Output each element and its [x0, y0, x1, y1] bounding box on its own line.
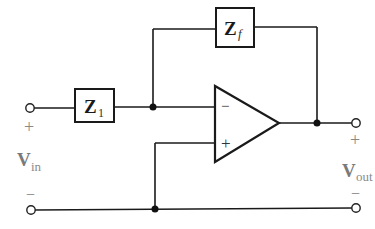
junction-node-inverting [150, 104, 157, 111]
junction-node-output [314, 120, 321, 127]
output-terminal-positive [352, 119, 360, 127]
opamp-inverting-sign: − [221, 98, 229, 114]
output-terminal-negative [352, 204, 360, 212]
vin-plus-sign: + [24, 117, 34, 137]
z1-label: Z [84, 96, 97, 117]
vout-plus-sign: + [350, 130, 360, 150]
vin-minus-sign: − [26, 186, 35, 203]
input-terminal-positive [26, 104, 34, 112]
wire-ground-rail [34, 208, 352, 210]
vin-label: V [17, 149, 31, 170]
vin-subscript: in [31, 159, 42, 174]
vout-label: V [342, 160, 356, 181]
input-terminal-negative [27, 206, 35, 214]
opamp-noninverting-sign: + [221, 134, 231, 153]
junction-node-ground [152, 206, 159, 213]
z1-subscript: 1 [98, 106, 104, 120]
vout-subscript: out [356, 169, 373, 184]
vout-minus-sign: − [351, 185, 360, 202]
circuit-diagram: Z 1 Z f − + + V in − + V out − [0, 0, 375, 229]
zf-label: Z [224, 18, 237, 39]
